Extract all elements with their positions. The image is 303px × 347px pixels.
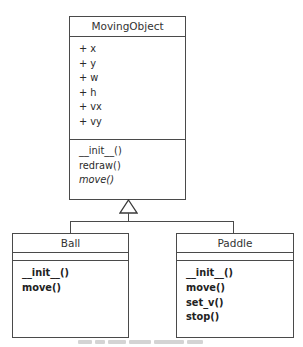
attribute-divider	[70, 139, 185, 140]
attribute-vy: + vy	[79, 115, 102, 130]
method-move-abstract: move()	[79, 173, 122, 188]
attribute-x: + x	[79, 42, 102, 57]
attribute-h: + h	[79, 86, 102, 101]
attribute-list: + x + y + w + h + vx + vy	[79, 42, 102, 130]
method-set-v: set_v()	[186, 296, 233, 311]
method-redraw: redraw()	[79, 159, 122, 174]
class-name-ball: Ball	[13, 237, 128, 249]
method-init: __init__()	[22, 266, 69, 281]
class-ball: Ball __init__() move()	[12, 233, 129, 338]
class-header-divider	[177, 252, 293, 253]
connector-paddle	[233, 221, 234, 233]
attribute-vx: + vx	[79, 100, 102, 115]
method-init: __init__()	[186, 266, 233, 281]
class-header-divider	[70, 36, 185, 37]
attribute-w: + w	[79, 71, 102, 86]
attribute-y: + y	[79, 57, 102, 72]
method-move: move()	[22, 281, 69, 296]
method-list: __init__() redraw() move()	[79, 144, 122, 188]
method-stop: stop()	[186, 310, 233, 325]
class-header-divider	[13, 252, 128, 253]
class-name-paddle: Paddle	[177, 237, 293, 249]
method-move: move()	[186, 281, 233, 296]
connector-ball	[70, 221, 71, 233]
attribute-divider	[13, 260, 128, 261]
method-list: __init__() move() set_v() stop()	[186, 266, 233, 325]
connector-horizontal	[70, 221, 234, 222]
attribute-divider	[177, 260, 293, 261]
class-paddle: Paddle __init__() move() set_v() stop()	[176, 233, 294, 338]
class-name-moving-object: MovingObject	[70, 20, 185, 32]
figure-caption	[78, 340, 226, 345]
method-init: __init__()	[79, 144, 122, 159]
inheritance-triangle-icon	[119, 199, 138, 214]
method-list: __init__() move()	[22, 266, 69, 296]
class-moving-object: MovingObject + x + y + w + h + vx + vy _…	[69, 16, 186, 200]
